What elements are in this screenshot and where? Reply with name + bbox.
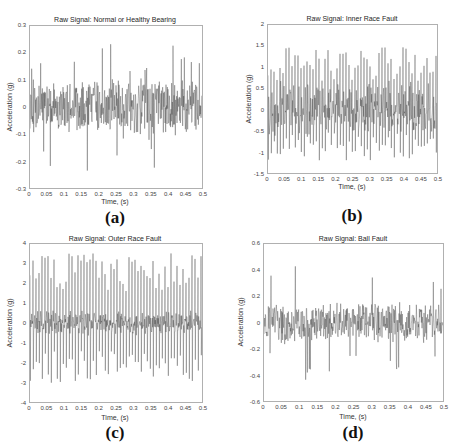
x-tick-label: 0.15 — [311, 404, 323, 410]
y-tick-label: 0.6 — [252, 240, 263, 246]
x-tick-label: 0.4 — [400, 176, 408, 182]
x-tick-label: 0.25 — [110, 405, 122, 411]
x-tick-label: 0.3 — [129, 191, 137, 197]
x-tick-label: 0.5 — [440, 404, 448, 410]
x-tick-label: 0.05 — [41, 405, 53, 411]
x-tick-label: 0.35 — [384, 404, 396, 410]
y-tick-label: 0.3 — [18, 22, 29, 28]
panel-caption: (b) — [342, 206, 363, 226]
y-tick-label: -0.1 — [16, 131, 29, 137]
y-tick-label: -0.2 — [16, 159, 29, 165]
y-tick-label: 2 — [261, 21, 267, 27]
x-tick-label: 0.3 — [129, 405, 137, 411]
plot-title: Raw Signal: Outer Race Fault — [69, 235, 162, 242]
plot-title: Raw Signal: Ball Fault — [319, 235, 387, 242]
y-axis-label: Acceleration (g) — [237, 297, 244, 346]
x-tick-label: 0.05 — [278, 176, 290, 182]
y-tick-label: 0 — [23, 320, 29, 326]
y-tick-label: 0.4 — [252, 267, 263, 273]
x-tick-label: 0.1 — [295, 404, 303, 410]
x-tick-label: 0.45 — [180, 191, 192, 197]
plot-title: Raw Signal: Normal or Healthy Bearing — [54, 16, 176, 23]
y-tick-label: -2 — [21, 360, 29, 366]
y-tick-label: -1 — [21, 340, 29, 346]
x-tick-label: 0 — [261, 404, 264, 410]
x-tick-label: 0.1 — [297, 176, 305, 182]
y-axis-label: Acceleration (g) — [245, 74, 252, 123]
y-tick-label: -0.4 — [250, 373, 263, 379]
signal-trace — [264, 244, 443, 401]
x-tick-label: 0.25 — [347, 176, 359, 182]
x-tick-label: 0.2 — [331, 176, 339, 182]
x-tick-label: 0.35 — [145, 191, 157, 197]
panel-caption: (d) — [343, 423, 364, 443]
x-tick-label: 0.4 — [164, 191, 172, 197]
plot-axes — [267, 24, 438, 174]
y-axis-label: Acceleration (g) — [6, 82, 13, 131]
y-tick-label: 0.1 — [18, 77, 29, 83]
x-tick-label: 0.05 — [41, 191, 53, 197]
x-tick-label: 0.5 — [199, 405, 207, 411]
x-tick-label: 0.25 — [110, 191, 122, 197]
y-tick-label: 0 — [23, 104, 29, 110]
x-tick-label: 0.35 — [145, 405, 157, 411]
y-tick-label: 0.5 — [256, 85, 267, 91]
y-tick-label: -3 — [21, 380, 29, 386]
panel-caption: (a) — [105, 208, 125, 228]
signal-trace — [30, 26, 202, 188]
x-tick-label: 0.45 — [415, 176, 427, 182]
x-tick-label: 0 — [27, 405, 30, 411]
x-tick-label: 0.5 — [199, 191, 207, 197]
signal-trace — [268, 25, 437, 173]
signal-trace — [30, 244, 202, 402]
y-tick-label: -0.2 — [250, 346, 263, 352]
x-tick-label: 0.4 — [404, 404, 412, 410]
plot-axes — [29, 243, 203, 403]
x-tick-label: 0.15 — [75, 191, 87, 197]
x-tick-label: 0.2 — [94, 191, 102, 197]
y-tick-label: 0.2 — [18, 49, 29, 55]
y-tick-label: 0 — [261, 107, 267, 113]
x-tick-label: 0.25 — [348, 404, 360, 410]
y-tick-label: 0.2 — [252, 293, 263, 299]
plot-axes — [29, 25, 203, 189]
x-tick-label: 0.5 — [434, 176, 442, 182]
plot-axes — [263, 243, 444, 402]
x-axis-label: Time, (s) — [339, 413, 366, 420]
x-tick-label: 0.2 — [331, 404, 339, 410]
x-tick-label: 0.45 — [180, 405, 192, 411]
x-tick-label: 0.1 — [60, 191, 68, 197]
y-tick-label: -1 — [259, 150, 267, 156]
x-tick-label: 0 — [265, 176, 268, 182]
x-axis-label: Time, (s) — [101, 414, 128, 421]
y-tick-label: 1.5 — [256, 42, 267, 48]
x-axis-label: Time, (s) — [338, 183, 365, 190]
x-tick-label: 0.3 — [365, 176, 373, 182]
x-tick-label: 0.1 — [60, 405, 68, 411]
y-axis-label: Acceleration (g) — [6, 298, 13, 347]
x-tick-label: 0.15 — [312, 176, 324, 182]
x-tick-label: 0.15 — [75, 405, 87, 411]
x-axis-label: Time, (s) — [101, 198, 128, 205]
plot-title: Raw Signal: Inner Race Fault — [306, 15, 397, 22]
y-tick-label: -0.5 — [254, 128, 267, 134]
x-tick-label: 0.45 — [420, 404, 432, 410]
x-tick-label: 0.35 — [381, 176, 393, 182]
x-tick-label: 0.05 — [275, 404, 287, 410]
y-tick-label: 0 — [257, 320, 263, 326]
y-tick-label: 3 — [23, 260, 29, 266]
y-tick-label: 4 — [23, 240, 29, 246]
x-tick-label: 0.4 — [164, 405, 172, 411]
x-tick-label: 0.3 — [367, 404, 375, 410]
y-tick-label: 1 — [23, 300, 29, 306]
x-tick-label: 0 — [27, 191, 30, 197]
panel-caption: (c) — [106, 423, 125, 443]
x-tick-label: 0.2 — [94, 405, 102, 411]
y-tick-label: 1 — [261, 64, 267, 70]
y-tick-label: 2 — [23, 280, 29, 286]
